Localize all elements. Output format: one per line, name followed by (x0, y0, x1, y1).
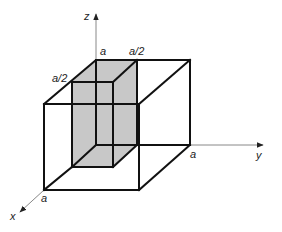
cube-diagram: z y x a a/2 a/2 a a (0, 0, 282, 232)
x-axis-label: x (9, 210, 16, 222)
label-y-a: a (190, 148, 196, 160)
y-axis-label: y (255, 149, 263, 161)
label-x-a: a (41, 192, 47, 204)
label-top-a-half: a/2 (129, 45, 144, 57)
inner-box-shading (72, 60, 137, 167)
z-axis-label: z (83, 10, 90, 22)
label-z-a: a (100, 45, 106, 57)
label-left-a-half: a/2 (52, 72, 67, 84)
